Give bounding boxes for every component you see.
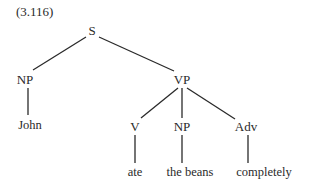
node-np-subject: NP xyxy=(17,73,34,86)
leaf-the-beans: the beans xyxy=(167,166,214,179)
node-adv: Adv xyxy=(235,120,257,133)
tree-edges xyxy=(0,0,309,189)
node-v: V xyxy=(130,120,139,133)
edge-s-np xyxy=(33,37,86,70)
node-np-object: NP xyxy=(174,120,191,133)
node-vp: VP xyxy=(174,73,191,86)
leaf-completely: completely xyxy=(236,166,292,179)
leaf-ate: ate xyxy=(128,166,143,179)
edge-vp-adv xyxy=(187,88,235,119)
leaf-john: John xyxy=(18,119,42,132)
node-s: S xyxy=(88,24,95,37)
edge-s-vp xyxy=(99,37,174,71)
syntax-tree-diagram: (3.116) S NP VP V NP Adv John ate the be… xyxy=(0,0,309,189)
edge-vp-v xyxy=(141,88,178,118)
